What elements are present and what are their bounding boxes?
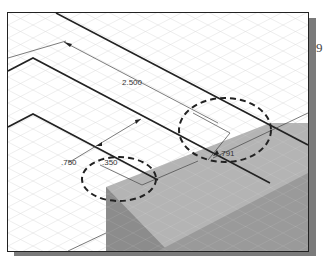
solid-grid-line: [8, 13, 308, 38]
dim-2500-ext: [8, 41, 66, 58]
grid-line: [8, 13, 308, 90]
dim-2500-label: 2.500: [122, 78, 143, 87]
solid-grid-line: [8, 13, 308, 142]
grid-line: [8, 13, 308, 51]
solid-grid-line: [8, 13, 308, 64]
cropped-page-text: 9: [316, 40, 323, 56]
grid-line: [8, 13, 308, 64]
grid-line: [8, 13, 308, 64]
grid-line: [8, 13, 308, 103]
solid-grid-line: [8, 13, 308, 38]
solid-grid-line: [8, 13, 308, 129]
dim-750-arrow-top: [135, 119, 141, 124]
grid-line: [8, 13, 308, 103]
solid-grid-line: [8, 13, 308, 51]
solid-grid-line: [8, 13, 308, 103]
solid-grid-line: [8, 13, 308, 103]
grid-line: [8, 13, 308, 142]
grid-line: [8, 13, 308, 38]
isometric-drawing: 2.500 .750 .350 .791: [8, 13, 308, 251]
grid-line: [8, 13, 308, 90]
dim-2500-arrow: [64, 42, 72, 47]
solid-grid-line: [8, 13, 308, 90]
solid-grid-line: [8, 13, 308, 90]
solid-grid-line: [8, 13, 308, 64]
solid-grid-line: [8, 13, 308, 129]
grid-line: [8, 13, 308, 142]
solid-grid-line: [8, 13, 308, 142]
drawing-viewport[interactable]: 2.500 .750 .350 .791: [7, 12, 309, 252]
grid-line: [8, 13, 308, 129]
grid-line: [8, 13, 308, 129]
solid-grid-line: [8, 13, 308, 51]
grid-line: [8, 13, 308, 51]
dim-750-label: .750: [61, 158, 77, 167]
dim-350-label: .350: [102, 158, 118, 167]
edge-lower: [8, 114, 158, 180]
dim-791-ext-a: [193, 113, 230, 133]
dim-791-label: .791: [219, 149, 235, 158]
grid-line: [8, 13, 308, 38]
